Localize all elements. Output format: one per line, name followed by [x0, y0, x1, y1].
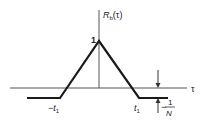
x-axis-label: τ [191, 84, 195, 94]
t1-label: t1 [134, 103, 141, 114]
arrow-down-icon [156, 83, 161, 88]
neg-t1-label: −t1 [48, 103, 60, 114]
offset-numerator: 1 [168, 98, 173, 107]
y-axis-label: Rb(τ) [103, 10, 122, 21]
autocorrelation-diagram: Rb(τ) 1 τ −t1 t1 − 1 N [0, 0, 209, 129]
peak-label: 1 [91, 35, 96, 45]
autocorrelation-curve [27, 41, 168, 98]
offset-denominator: N [166, 109, 172, 118]
